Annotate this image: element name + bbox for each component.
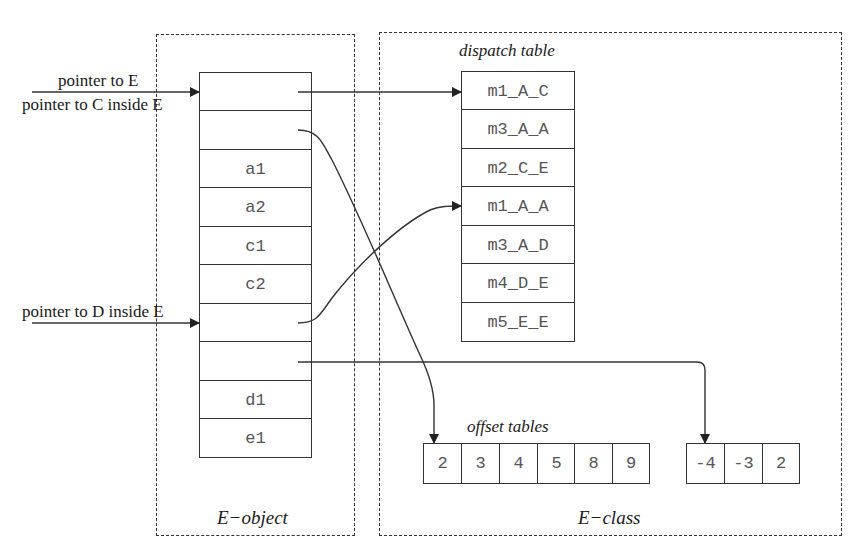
offset-ptr-to-table1-arrow [298,130,434,443]
diagram-canvas: a1 a2 c1 c2 d1 e1 dispatch table m1_A_C … [0,0,867,557]
offset-ptr-d-to-table2-arrow [298,362,705,443]
connector-layer [0,0,867,557]
